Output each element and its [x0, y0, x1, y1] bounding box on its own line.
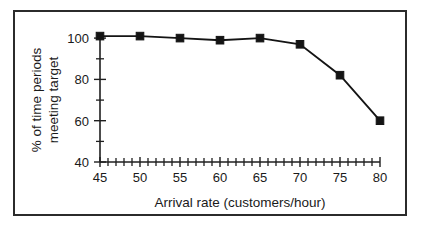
x-tick-label-45: 45 — [93, 170, 107, 185]
y-axis-title-line-2: meeting target — [46, 57, 61, 144]
x-tick-label-50: 50 — [133, 170, 147, 185]
data-point-50 — [136, 32, 144, 40]
y-axis-title: % of time periods meeting target — [29, 48, 61, 153]
data-point-75 — [336, 71, 344, 79]
x-axis-title: Arrival rate (customers/hour) — [154, 195, 325, 210]
y-tick-label-40: 40 — [75, 155, 89, 170]
line-chart: 100 80 60 40 — [15, 12, 405, 214]
x-tick-label-65: 65 — [253, 170, 267, 185]
y-axis-title-line-1: % of time periods — [29, 48, 44, 153]
data-point-60 — [216, 36, 224, 44]
x-tick-label-75: 75 — [333, 170, 347, 185]
figure-root: 100 80 60 40 — [0, 0, 421, 234]
y-tick-label-60: 60 — [75, 114, 89, 129]
y-axis-tick-labels: 100 80 60 40 — [67, 31, 89, 170]
series-markers — [96, 32, 384, 124]
data-point-70 — [296, 41, 304, 49]
data-point-45 — [96, 32, 104, 40]
chart-frame: 100 80 60 40 — [13, 10, 407, 216]
data-point-65 — [256, 34, 264, 42]
y-tick-label-100: 100 — [67, 31, 89, 46]
data-point-80 — [376, 117, 384, 125]
x-tick-label-55: 55 — [173, 170, 187, 185]
x-axis-tick-labels: 45 50 55 60 65 70 75 80 — [93, 170, 387, 185]
x-tick-label-70: 70 — [293, 170, 307, 185]
data-point-55 — [176, 34, 184, 42]
x-tick-label-60: 60 — [213, 170, 227, 185]
y-tick-label-80: 80 — [75, 72, 89, 87]
x-tick-label-80: 80 — [373, 170, 387, 185]
